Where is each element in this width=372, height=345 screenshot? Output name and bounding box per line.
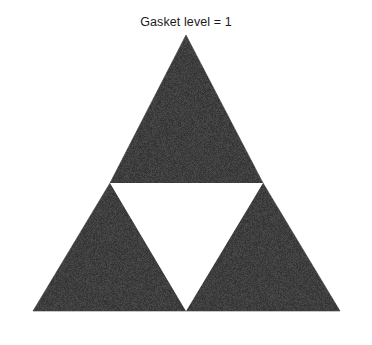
sierpinski-gasket-canvas — [0, 0, 372, 345]
figure-container: Gasket level = 1 — [0, 0, 372, 345]
